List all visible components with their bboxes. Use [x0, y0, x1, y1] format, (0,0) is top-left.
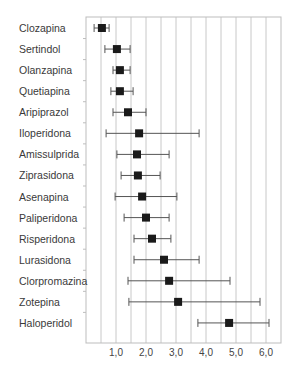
estimate-marker	[138, 193, 146, 201]
category-label: Iloperidona	[19, 127, 71, 139]
estimate-marker	[116, 87, 124, 95]
category-label: Olanzapina	[19, 64, 72, 76]
category-labels: ClozapinaSertindolOlanzapinaQuetiapinaAr…	[19, 22, 87, 329]
estimate-marker	[148, 235, 156, 243]
forest-row	[128, 277, 230, 285]
estimate-marker	[113, 45, 121, 53]
forest-row	[111, 87, 133, 95]
estimate-marker	[98, 24, 106, 32]
estimate-marker	[134, 171, 142, 179]
x-tick-label: 4,0	[199, 347, 213, 358]
estimate-marker	[133, 150, 141, 158]
plot-frame	[86, 17, 281, 343]
estimate-marker	[116, 66, 124, 74]
category-label: Paliperidona	[19, 212, 78, 224]
forest-row	[129, 298, 260, 306]
estimate-marker	[174, 298, 182, 306]
category-label: Clorpromazina	[19, 275, 87, 287]
x-axis-ticks: 1,02,03,04,05,06,0	[109, 347, 273, 358]
category-label: Lurasidona	[19, 254, 71, 266]
estimate-marker	[225, 319, 233, 327]
category-label: Ziprasidona	[19, 169, 74, 181]
category-label: Quetiapina	[19, 85, 70, 97]
estimate-marker	[165, 277, 173, 285]
estimate-marker	[142, 214, 150, 222]
forest-row	[94, 24, 109, 32]
category-label: Zotepina	[19, 296, 60, 308]
category-label: Asenapina	[19, 191, 69, 203]
estimate-marker	[124, 108, 132, 116]
data-rows	[94, 24, 269, 327]
estimate-marker	[160, 256, 168, 264]
x-tick-label: 1,0	[109, 347, 123, 358]
category-label: Sertindol	[19, 43, 60, 55]
x-tick-label: 6,0	[259, 347, 273, 358]
forest-row	[134, 235, 171, 243]
forest-row	[134, 256, 199, 264]
x-tick-label: 3,0	[169, 347, 183, 358]
x-tick-label: 2,0	[139, 347, 153, 358]
estimate-marker	[135, 129, 143, 137]
category-label: Clozapina	[19, 22, 66, 34]
forest-row	[105, 45, 130, 53]
category-label: Risperidona	[19, 233, 75, 245]
grid-lines	[101, 17, 266, 343]
forest-row	[198, 319, 269, 327]
forest-row	[113, 108, 146, 116]
category-label: Amissulprida	[19, 148, 79, 160]
forest-plot: ClozapinaSertindolOlanzapinaQuetiapinaAr…	[0, 0, 298, 379]
forest-row	[106, 129, 199, 137]
x-tick-label: 5,0	[229, 347, 243, 358]
category-label: Haloperidol	[19, 317, 72, 329]
category-label: Aripiprazol	[19, 106, 69, 118]
forest-row	[121, 171, 160, 179]
forest-row	[115, 193, 177, 201]
